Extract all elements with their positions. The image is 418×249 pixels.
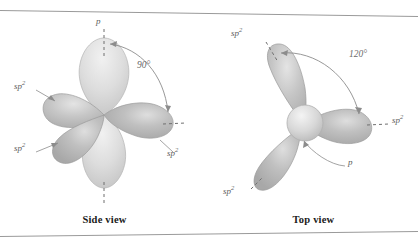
side-sp2-label-lower-left: sp2 — [14, 141, 25, 153]
side-sp2-label-upper-left: sp2 — [14, 79, 25, 91]
top-angle-label-120: 120° — [349, 49, 367, 59]
caption-side-view: Side view — [0, 214, 209, 225]
top-sp2-label-right: sp2 — [392, 113, 403, 125]
sp2-superscript-2: 2 — [22, 141, 25, 148]
sp2-superscript-5: 2 — [400, 113, 403, 120]
top-p-label: p — [348, 157, 353, 167]
sp2-superscript-4: 2 — [239, 26, 242, 33]
caption-top-view: Top view — [209, 214, 418, 225]
side-sp2-label-right: sp2 — [167, 146, 178, 158]
sp2-superscript-3: 2 — [175, 146, 178, 153]
panel-side-view: p 90° sp2 sp2 sp2 Side view — [0, 0, 209, 249]
side-angle-label-90: 90° — [137, 60, 150, 70]
sp2-superscript-1: 2 — [22, 79, 25, 86]
top-sp2-label-upper-left: sp2 — [231, 26, 242, 38]
panel-top-view: sp2 120° sp2 sp2 p Top view — [209, 0, 418, 249]
figure-container: p 90° sp2 sp2 sp2 Side view sp2 120° sp2… — [0, 0, 418, 249]
side-p-label: p — [96, 16, 101, 26]
sp2-superscript-6: 2 — [231, 184, 234, 191]
top-sp2-label-lower-left: sp2 — [223, 184, 234, 196]
